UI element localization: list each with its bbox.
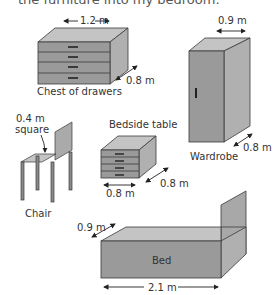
chest-depth-label: 0.8 m <box>126 75 155 86</box>
bedside-name-label: Bedside table <box>109 119 177 130</box>
chest-of-drawers-shape <box>38 28 128 84</box>
bedside-width-label: 0.8 m <box>106 188 135 199</box>
chair-seat-pointer-arrow <box>41 135 45 152</box>
wardrobe-shape <box>189 38 250 142</box>
chair-name-label: Chair <box>25 208 51 219</box>
bed-shape <box>101 191 246 278</box>
wardrobe-depth-label: 0.8 m <box>243 142 272 153</box>
bedside-depth-label: 0.8 m <box>160 178 189 189</box>
wardrobe-handle-icon <box>195 88 197 98</box>
bed-name-label: Bed <box>152 255 171 266</box>
wardrobe-name-label: Wardrobe <box>190 151 238 162</box>
chest-name-label: Chest of drawers <box>37 86 122 97</box>
chair-seat-size-label: 0.4 m <box>16 113 45 124</box>
bed-length-label: 2.1 m <box>148 282 177 293</box>
bedside-table-shape <box>101 136 156 178</box>
furniture-diagram <box>0 0 278 295</box>
bed-width-label: 0.9 m <box>77 222 106 233</box>
chair-seat-note-label: square <box>15 124 49 135</box>
chest-width-label: 1.2 m <box>80 15 109 26</box>
wardrobe-width-label: 0.9 m <box>218 15 247 26</box>
